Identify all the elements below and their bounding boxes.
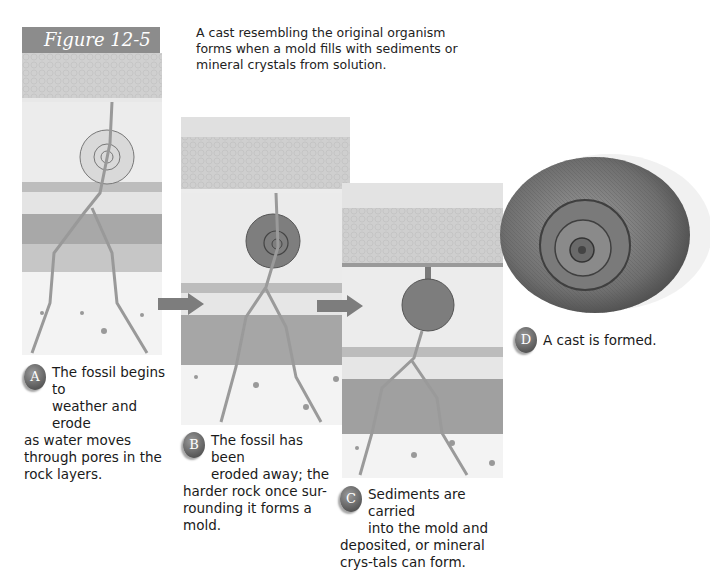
panel-c-illustration [342, 183, 503, 478]
step-letter-badge-icon: D [515, 327, 537, 353]
panel-a-illustration [22, 53, 162, 355]
rock-layers-illustration-a [22, 53, 162, 355]
step-d-caption: D A cast is formed. [515, 327, 685, 353]
step-a-caption: A The fossil begins to weather and erode… [24, 364, 176, 483]
step-letter-badge-icon: A [24, 364, 46, 390]
step-b-caption: B The fossil has been eroded away; the h… [183, 432, 333, 534]
step-c-caption: C Sediments are carried into the mold an… [340, 486, 500, 571]
rock-layers-illustration-c [342, 183, 503, 478]
step-letter-badge-icon: C [340, 486, 362, 512]
rock-layers-illustration-b [181, 117, 350, 425]
figure-caption: A cast resembling the original organism … [196, 25, 476, 73]
right-arrow-icon [317, 295, 363, 317]
right-arrow-icon [158, 293, 204, 315]
panel-b-illustration [181, 117, 350, 425]
figure-label: Figure 12-5 [22, 27, 160, 53]
step-letter-badge-icon: B [183, 432, 205, 458]
ammonite-fossil-photo [490, 140, 710, 315]
